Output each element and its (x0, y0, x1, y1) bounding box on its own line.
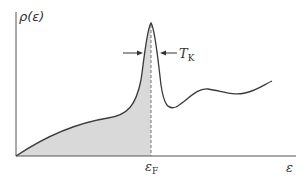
y-axis-argument: (ε) (27, 9, 44, 24)
tk-right-arrow (160, 51, 177, 56)
diagram-svg (0, 0, 308, 180)
kondo-temperature-label: TK (179, 47, 194, 60)
y-axis-label: ρ(ε) (19, 10, 44, 23)
tk-symbol: T (179, 46, 188, 61)
density-of-states-diagram: ρ(ε) TK εF ε (0, 0, 308, 180)
x-axis-label: ε (286, 161, 293, 174)
occupied-states-fill (16, 23, 151, 156)
ef-symbol: ε (145, 159, 152, 174)
ef-subscript: F (152, 166, 158, 176)
fermi-level-label: εF (145, 160, 158, 173)
tk-subscript: K (188, 53, 195, 63)
tk-left-arrow (123, 51, 143, 56)
